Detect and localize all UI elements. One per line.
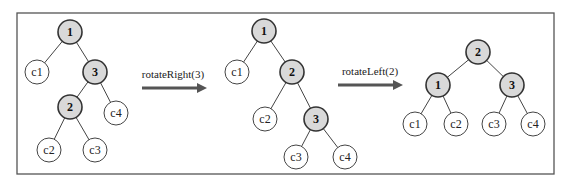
- internal-node-1: 1: [58, 20, 82, 44]
- node-label: 1: [435, 78, 441, 92]
- node-label: 2: [475, 45, 481, 59]
- leaf-node-c2: c2: [444, 112, 468, 136]
- node-label: c4: [110, 106, 121, 120]
- node-label: c2: [43, 143, 54, 157]
- internal-node-2: 2: [466, 40, 490, 64]
- node-label: c4: [339, 150, 350, 164]
- node-label: c1: [31, 65, 42, 79]
- node-label: c4: [527, 117, 538, 131]
- tree-rotation-diagram: 1c132c4c2c31c12c23c3c4213c1c2c3c4 rotate…: [0, 0, 571, 186]
- node-label: c1: [409, 117, 420, 131]
- leaf-node-c1: c1: [225, 60, 249, 84]
- node-label: c3: [89, 143, 100, 157]
- internal-node-2: 2: [280, 60, 304, 84]
- leaf-node-c4: c4: [104, 101, 128, 125]
- internal-node-3: 3: [500, 73, 524, 97]
- node-label: 2: [67, 100, 73, 114]
- node-label: 3: [313, 112, 319, 126]
- leaf-node-c4: c4: [521, 112, 545, 136]
- node-label: c3: [488, 117, 499, 131]
- internal-node-3: 3: [304, 107, 328, 131]
- internal-node-2: 2: [58, 95, 82, 119]
- internal-node-1: 1: [426, 73, 450, 97]
- operation-label: rotateRight(3): [142, 68, 205, 81]
- leaf-node-c4: c4: [333, 145, 357, 169]
- leaf-node-c1: c1: [403, 112, 427, 136]
- node-label: 1: [67, 25, 73, 39]
- operation-label: rotateLeft(2): [342, 65, 399, 78]
- node-label: 2: [289, 65, 295, 79]
- node-label: c1: [231, 65, 242, 79]
- node-label: c2: [450, 117, 461, 131]
- leaf-node-c1: c1: [25, 60, 49, 84]
- internal-node-1: 1: [252, 19, 276, 43]
- node-label: 1: [261, 24, 267, 38]
- leaf-node-c3: c3: [482, 112, 506, 136]
- leaf-node-c3: c3: [284, 145, 308, 169]
- node-label: c3: [290, 150, 301, 164]
- node-label: 3: [509, 78, 515, 92]
- leaf-node-c3: c3: [83, 138, 107, 162]
- leaf-node-c2: c2: [37, 138, 61, 162]
- internal-node-3: 3: [83, 60, 107, 84]
- node-label: 3: [92, 65, 98, 79]
- leaf-node-c2: c2: [253, 107, 277, 131]
- node-label: c2: [259, 112, 270, 126]
